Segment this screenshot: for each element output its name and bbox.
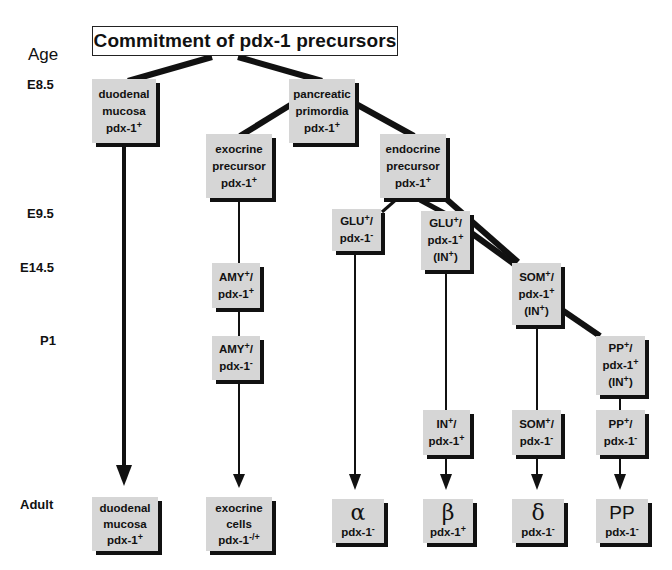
node-adult-duodenal-mucosa: duodenal mucosa pdx-1+ <box>92 497 158 551</box>
node-adult-exocrine-cells: exocrine cells pdx-1-/+ <box>206 497 272 551</box>
age-label-p1: P1 <box>40 333 56 348</box>
node-marker: pdx-1+ <box>221 175 257 192</box>
node-glu-pdx-negative: GLU+/ pdx-1- <box>332 209 381 251</box>
node-marker: pdx-1+ <box>304 120 340 137</box>
node-text: pancreatic <box>293 86 351 103</box>
node-adult-delta-cell: δ pdx-1- <box>512 499 564 543</box>
node-marker: pdx-1+ <box>395 175 431 192</box>
beta-symbol: β <box>442 502 455 524</box>
node-adult-pp-cell: PP pdx-1- <box>596 499 648 543</box>
diagram-title: Commitment of pdx-1 precursors <box>92 26 398 56</box>
node-text: exocrine <box>215 141 262 158</box>
node-text: duodenal <box>98 86 149 103</box>
node-in-pdx-positive: IN+/ pdx-1+ <box>423 410 470 455</box>
node-duodenal-mucosa-e85: duodenal mucosa pdx-1+ <box>92 79 156 143</box>
pp-symbol: PP <box>609 502 634 524</box>
node-text: endocrine <box>386 141 441 158</box>
node-pancreatic-primordia: pancreatic primordia pdx-1+ <box>289 79 355 143</box>
node-pp-pdx-positive-in: PP+/ pdx-1+ (IN+) <box>596 336 645 395</box>
node-text: mucosa <box>102 103 145 120</box>
node-text: precursor <box>386 158 440 175</box>
node-marker: pdx-1+ <box>106 120 142 137</box>
node-som-pdx-positive-in: SOM+/ pdx-1+ (IN+) <box>512 263 561 325</box>
node-amy-pdx-negative: AMY+/ pdx-1- <box>212 336 260 380</box>
node-adult-alpha-cell: α pdx-1- <box>332 499 384 543</box>
node-pp-pdx-negative: PP+/ pdx-1- <box>596 410 645 455</box>
age-label-e95: E9.5 <box>27 206 54 221</box>
age-label-e145: E14.5 <box>20 260 54 275</box>
node-text: primordia <box>295 103 348 120</box>
age-label-e85: E8.5 <box>27 77 54 92</box>
alpha-symbol: α <box>351 502 366 524</box>
node-amy-pdx-positive: AMY+/ pdx-1+ <box>212 263 260 308</box>
node-endocrine-precursor: endocrine precursor pdx-1+ <box>380 134 446 198</box>
node-adult-beta-cell: β pdx-1+ <box>423 499 473 543</box>
node-glu-pdx-positive-in: GLU+/ pdx-1+ (IN+) <box>421 211 470 270</box>
node-exocrine-precursor: exocrine precursor pdx-1+ <box>206 134 272 198</box>
age-axis-heading: Age <box>28 45 58 65</box>
node-text: precursor <box>212 158 266 175</box>
delta-symbol: δ <box>531 502 544 524</box>
node-som-pdx-negative: SOM+/ pdx-1- <box>512 410 561 455</box>
age-label-adult: Adult <box>20 497 53 512</box>
